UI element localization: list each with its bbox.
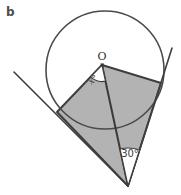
geometry-diagram: b O x° 30° xyxy=(0,0,181,195)
angle-30-label: 30° xyxy=(121,148,139,159)
figure-panel: b O x° 30° xyxy=(0,0,181,195)
center-point-marker xyxy=(101,63,104,66)
center-label: O xyxy=(97,50,106,63)
figure-label: b xyxy=(6,5,15,19)
